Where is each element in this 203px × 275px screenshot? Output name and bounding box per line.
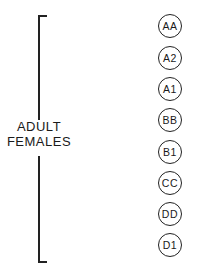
bracket-vertical-upper [38,15,40,120]
node-cc: CC [158,171,182,195]
group-label-line1: ADULT [0,120,78,134]
node-d1: D1 [158,233,182,257]
node-dd: DD [158,202,182,226]
bracket-bottom-tick [38,261,47,263]
group-label-line2: FEMALES [0,135,78,149]
node-bb: BB [158,108,182,132]
node-aa: AA [158,14,182,38]
node-a1: A1 [158,77,182,101]
node-b1: B1 [158,140,182,164]
node-a2: A2 [158,46,182,70]
bracket-vertical-lower [38,156,40,262]
